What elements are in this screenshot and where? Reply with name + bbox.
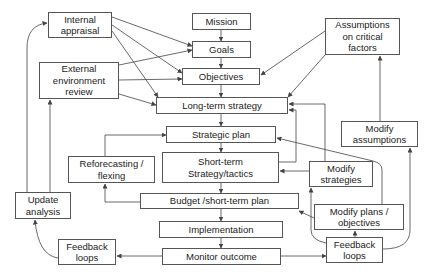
objectives-box: Objectives (182, 68, 260, 85)
monitor-outcome-box: Monitor outcome (162, 248, 281, 265)
assumptions-box: Assumptions on critical factors (325, 18, 400, 55)
modify-assumptions-box: Modify assumptions (341, 121, 418, 147)
update-analysis-box: Update analysis (15, 192, 71, 219)
strategic-plan-box: Strategic plan (166, 126, 276, 143)
reforecasting-box: Reforecasting / flexing (68, 156, 155, 183)
long-term-strategy-box: Long-term strategy (156, 97, 288, 114)
external-environment-review-box: External environment review (39, 62, 119, 99)
budget-box: Budget /short-term plan (140, 193, 299, 209)
modify-strategies-box: Modify strategies (309, 161, 373, 187)
goals-box: Goals (192, 41, 251, 58)
internal-appraisal-box: Internal appraisal (48, 12, 112, 38)
feedback-loops-left-box: Feedback loops (58, 239, 116, 265)
mission-box: Mission (192, 13, 251, 30)
feedback-loops-right-box: Feedback loops (326, 237, 383, 263)
modify-plans-box: Modify plans / objectives (314, 204, 404, 230)
short-term-strategy-box: Short-term Strategy/tactics (162, 152, 279, 183)
implementation-box: Implementation (159, 221, 283, 238)
